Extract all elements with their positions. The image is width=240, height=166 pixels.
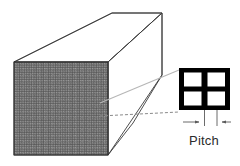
detail-cell-top-right xyxy=(208,73,226,87)
magnified-cell-detail xyxy=(179,68,230,110)
detail-cell-top-left xyxy=(184,73,202,87)
detail-cell-bottom-right xyxy=(208,92,226,106)
detail-cell-bottom-left xyxy=(184,92,202,106)
pitch-label: Pitch xyxy=(189,133,219,148)
front-face-noise xyxy=(14,62,108,155)
pitch-dimension: Pitch xyxy=(183,110,231,148)
honeycomb-front-face xyxy=(14,62,108,155)
honeycomb-pitch-diagram: Pitch xyxy=(0,0,240,166)
diagram-canvas: Pitch xyxy=(0,0,240,166)
honeycomb-block xyxy=(14,13,162,155)
